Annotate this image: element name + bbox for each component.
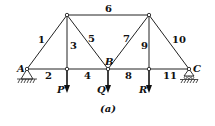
load-label-R: R [138,84,147,95]
node-A [25,67,28,70]
member-label-6: 6 [105,3,112,14]
node-label-A: A [16,63,25,74]
member-label-9: 9 [141,40,148,51]
member-label-10: 10 [172,34,186,45]
node-C [187,67,190,70]
load-label-Q: Q [97,84,106,95]
member-label-5: 5 [88,33,95,44]
node-B [106,67,109,70]
member-label-3: 3 [70,40,77,51]
member-label-2: 2 [45,70,52,81]
load-P [64,69,70,93]
member-1 [27,15,67,69]
node-label-C: C [193,63,201,74]
member-label-1: 1 [38,34,45,45]
member-label-4: 4 [84,70,91,81]
node-top-right [147,13,150,16]
load-Q [105,69,111,93]
truss-diagram: 1 2 3 4 5 6 7 8 9 10 11 A B C P Q R (a) [0,0,215,126]
member-label-7: 7 [123,33,130,44]
node-bottom-left [65,67,68,70]
node-bottom-right [147,67,150,70]
node-top-left [65,13,68,16]
figure-caption: (a) [100,103,116,114]
member-label-8: 8 [125,70,132,81]
member-label-11: 11 [163,70,177,81]
load-label-P: P [56,84,65,95]
node-label-B: B [104,56,113,67]
